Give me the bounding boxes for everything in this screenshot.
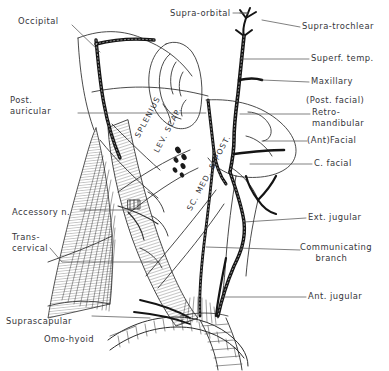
label-occipital: Occipital — [18, 16, 59, 27]
label-anterior-facial: (Ant)Facial — [307, 135, 356, 146]
label-anterior-jugular: Ant. jugular — [308, 291, 362, 302]
label-supra-trochlear: Supra-trochlear — [302, 21, 374, 32]
label-supra-orbital: Supra-orbital — [170, 8, 231, 19]
retromandibular-vein-trunk — [230, 36, 244, 172]
label-retromandibular: Retro- mandibular — [312, 107, 364, 128]
nerve-marker — [128, 200, 140, 209]
label-post-auricular: Post. auricular — [10, 95, 51, 116]
label-communicating-branch: Communicating branch — [300, 242, 372, 263]
label-accessory-nerve: Accessory n. — [12, 207, 70, 218]
anterior-facial-vein — [234, 150, 284, 154]
label-transcervical: Trans- cervical — [12, 232, 48, 253]
label-omo-hyoid: Omo-hyoid — [44, 334, 94, 345]
external-jugular-vein — [218, 172, 244, 316]
anatomy-figure: Occipital Post. auricular Accessory n. T… — [0, 0, 389, 371]
facial-tributary-fork — [246, 176, 276, 214]
vessel-stipple-cluster — [172, 146, 188, 179]
maxillary-vein — [239, 79, 262, 81]
supratrochlear-supraorbital-veins — [236, 8, 256, 36]
label-external-jugular: Ext. jugular — [308, 212, 361, 223]
label-superficial-temporal: Superf. temp. — [311, 53, 374, 64]
label-common-facial: C. facial — [314, 158, 352, 169]
label-maxillary: Maxillary — [311, 76, 353, 87]
label-posterior-facial: (Post. facial) — [306, 95, 364, 106]
label-suprascapular: Suprascapular — [6, 316, 72, 327]
